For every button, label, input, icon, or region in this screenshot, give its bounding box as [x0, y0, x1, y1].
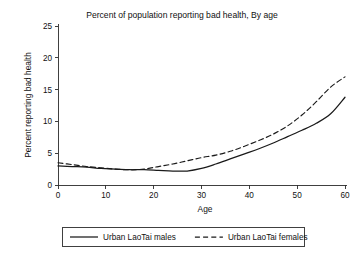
chart-title: Percent of population reporting bad heal…: [86, 10, 278, 20]
x-tick-label: 20: [149, 191, 159, 200]
series-layer: [58, 77, 345, 171]
x-axis: 0102030405060: [56, 185, 350, 200]
y-tick-label: 15: [43, 86, 53, 95]
y-tick-label: 0: [47, 181, 52, 190]
x-tick-label: 50: [293, 191, 303, 200]
legend-label-males: Urban LaoTai males: [103, 233, 176, 242]
y-tick-label: 25: [43, 22, 53, 31]
series-line-females: [58, 77, 345, 170]
x-tick-label: 30: [197, 191, 207, 200]
x-tick-label: 60: [340, 191, 350, 200]
legend-label-females: Urban LaoTai females: [228, 233, 308, 242]
x-tick-label: 40: [245, 191, 255, 200]
x-tick-label: 10: [101, 191, 111, 200]
y-tick-label: 20: [43, 54, 53, 63]
series-line-males: [58, 97, 345, 171]
y-tick-label: 10: [43, 117, 53, 126]
y-tick-label: 5: [47, 149, 52, 158]
y-axis-label: Percent reporting bad health: [23, 52, 33, 158]
line-chart: Percent of population reporting bad heal…: [0, 0, 364, 260]
x-axis-label: Age: [198, 204, 213, 214]
chart-legend: Urban LaoTai malesUrban LaoTai females: [62, 227, 308, 246]
chart-container: Percent of population reporting bad heal…: [0, 0, 364, 260]
x-tick-label: 0: [56, 191, 61, 200]
y-axis: 0510152025: [43, 22, 58, 190]
